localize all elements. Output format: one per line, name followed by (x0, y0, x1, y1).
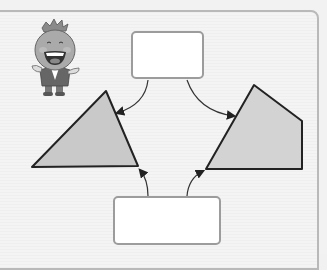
arrow-top-to-triangle (117, 80, 148, 113)
arrow-bottom-to-pentagon (187, 171, 203, 196)
pentagon-shape (206, 85, 302, 169)
triangle-shape (32, 91, 138, 167)
arrow-bottom-to-triangle (140, 170, 148, 196)
mascot-icon (32, 19, 79, 96)
arrow-top-to-pentagon (187, 80, 234, 116)
